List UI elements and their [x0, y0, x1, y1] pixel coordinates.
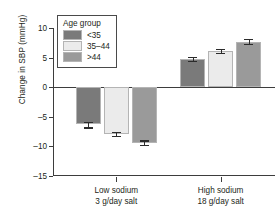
error-bar-cap — [84, 122, 93, 123]
error-bar-cap — [216, 53, 225, 54]
error-bar-cap — [244, 44, 253, 45]
y-tick-label: –15 — [33, 172, 47, 181]
error-bar-cap — [188, 61, 197, 62]
y-tick-mark — [49, 28, 53, 29]
error-bar-cap — [188, 57, 197, 58]
legend-item: >44 — [63, 52, 110, 62]
y-tick-label: –5 — [38, 112, 47, 121]
x-group-label-line: Low sodium — [94, 185, 138, 196]
x-group-label: Low sodium3 g/day salt — [94, 185, 138, 207]
legend-swatch — [63, 41, 82, 51]
x-axis-area: Low sodium3 g/day saltHigh sodium18 g/da… — [53, 177, 275, 217]
error-bar-cap — [216, 49, 225, 50]
y-tick-label: 0 — [42, 83, 47, 92]
legend-label: 35–44 — [87, 42, 110, 51]
error-bar-cap — [84, 127, 93, 128]
legend-swatch — [63, 52, 82, 62]
x-group-label: High sodium18 g/day salt — [197, 185, 243, 207]
error-bar-cap — [140, 145, 149, 146]
error-bar-cap — [112, 132, 121, 133]
bar — [104, 87, 129, 134]
y-tick-mark — [49, 146, 53, 147]
error-bar-cap — [140, 140, 149, 141]
x-group-label-line: High sodium — [197, 185, 243, 196]
x-tick-mark — [116, 177, 117, 182]
y-tick-label: 5 — [42, 53, 47, 62]
y-axis-line — [53, 28, 54, 176]
legend-entries: <3535–44>44 — [63, 30, 110, 62]
bar — [76, 87, 101, 124]
x-tick-mark — [221, 177, 222, 182]
y-tick-label: 10 — [38, 24, 47, 33]
x-axis-baseline — [53, 175, 275, 176]
bar — [236, 42, 261, 88]
bar-chart: Change in SBP (mmHg) 1050–5–10–15 Low so… — [0, 0, 280, 224]
bar — [208, 51, 233, 87]
y-tick-label: –10 — [33, 142, 47, 151]
y-tick-mark — [49, 117, 53, 118]
x-group-label-line: 3 g/day salt — [94, 196, 138, 207]
y-axis-label: Change in SBP (mmHg) — [18, 0, 27, 120]
bar — [180, 59, 205, 87]
error-bar-cap — [112, 136, 121, 137]
y-tick-mark — [49, 58, 53, 59]
error-bar-cap — [244, 39, 253, 40]
legend-label: <35 — [87, 31, 101, 40]
legend-item: 35–44 — [63, 41, 110, 51]
x-group-label-line: 18 g/day salt — [197, 196, 243, 207]
y-tick-mark — [49, 87, 53, 88]
legend-label: >44 — [87, 53, 101, 62]
bar — [132, 87, 157, 143]
legend-item: <35 — [63, 30, 110, 40]
legend-title: Age group — [63, 19, 110, 28]
legend-swatch — [63, 30, 82, 40]
legend: Age group <3535–44>44 — [57, 15, 117, 68]
